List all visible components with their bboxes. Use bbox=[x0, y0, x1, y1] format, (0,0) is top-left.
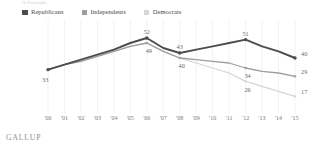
data-label: 17 bbox=[301, 89, 307, 95]
data-label: 52 bbox=[144, 29, 150, 35]
x-axis: '00'01'02'03'04'05'06'07'08'09'10'11'12'… bbox=[0, 113, 313, 127]
x-tick-15: '15 bbox=[291, 115, 298, 121]
data-point bbox=[46, 68, 49, 71]
series-line-republicans bbox=[48, 38, 295, 70]
data-point bbox=[293, 56, 296, 59]
x-tick-13: '13 bbox=[259, 115, 266, 121]
x-tick-05: '05 bbox=[127, 115, 134, 121]
x-tick-01: '01 bbox=[61, 115, 68, 121]
data-label: 40 bbox=[301, 51, 307, 57]
legend-item-independents[interactable]: Independents bbox=[82, 9, 126, 16]
data-point bbox=[178, 51, 181, 54]
line-chart-svg bbox=[0, 20, 313, 115]
data-label: 40 bbox=[179, 63, 185, 69]
top-note: % Favorable bbox=[22, 0, 47, 5]
data-point bbox=[244, 80, 246, 82]
series-line-independents bbox=[48, 43, 295, 76]
x-tick-10: '10 bbox=[209, 115, 216, 121]
chart-legend: Republicans Independents Democrats bbox=[22, 9, 199, 16]
data-label: 34 bbox=[244, 73, 250, 79]
x-tick-06: '06 bbox=[143, 115, 150, 121]
legend-item-democrats[interactable]: Democrats bbox=[144, 9, 182, 16]
plot-area bbox=[0, 20, 313, 115]
chart-root: % Favorable Republicans Independents Dem… bbox=[0, 0, 313, 154]
x-tick-08: '08 bbox=[176, 115, 183, 121]
legend-swatch-democrats-icon bbox=[144, 10, 150, 16]
data-label: 26 bbox=[244, 87, 250, 93]
x-tick-02: '02 bbox=[77, 115, 84, 121]
legend-label-democrats: Democrats bbox=[153, 9, 182, 16]
source-credit: GALLUP bbox=[6, 133, 41, 142]
data-point bbox=[244, 67, 246, 69]
x-tick-03: '03 bbox=[94, 115, 101, 121]
data-label: 51 bbox=[242, 31, 248, 37]
gridlines bbox=[48, 20, 295, 113]
data-label: 49 bbox=[146, 48, 152, 54]
data-point bbox=[244, 38, 247, 41]
data-point bbox=[294, 75, 296, 77]
legend-label-independents: Independents bbox=[91, 9, 126, 16]
legend-swatch-republicans-icon bbox=[22, 10, 28, 16]
x-tick-09: '09 bbox=[193, 115, 200, 121]
legend-swatch-independents-icon bbox=[82, 10, 88, 16]
data-point bbox=[179, 57, 181, 59]
data-label: 29 bbox=[301, 69, 307, 75]
x-tick-00: '00 bbox=[44, 115, 51, 121]
x-tick-12: '12 bbox=[242, 115, 249, 121]
data-label: 43 bbox=[177, 44, 183, 50]
legend-item-republicans[interactable]: Republicans bbox=[22, 9, 64, 16]
x-tick-14: '14 bbox=[275, 115, 282, 121]
legend-label-republicans: Republicans bbox=[31, 9, 64, 16]
series-lines bbox=[48, 38, 295, 96]
data-point bbox=[145, 36, 148, 39]
x-tick-04: '04 bbox=[110, 115, 117, 121]
data-point bbox=[294, 95, 296, 97]
x-tick-11: '11 bbox=[226, 115, 233, 121]
x-tick-07: '07 bbox=[160, 115, 167, 121]
data-label: 33 bbox=[42, 77, 48, 83]
data-point bbox=[146, 42, 148, 44]
